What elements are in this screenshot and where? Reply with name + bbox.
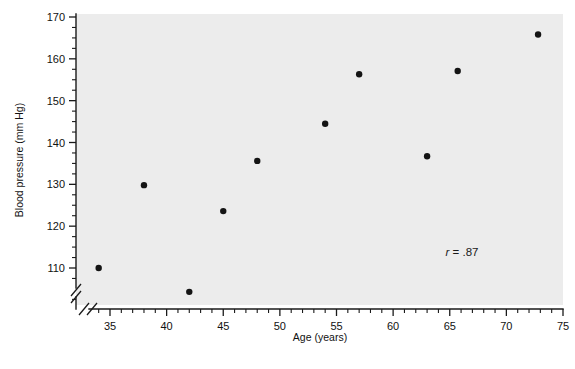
data-point [454,68,460,74]
x-axis-title: Age (years) [293,331,347,343]
x-tick-label: 65 [444,320,456,332]
data-point [95,265,101,271]
data-point [220,208,226,214]
y-tick-label: 150 [47,95,65,107]
data-point [322,120,328,126]
correlation-value-text: = .87 [449,246,478,258]
data-point [141,182,147,188]
correlation-annotation: r = .87 [446,246,479,258]
x-tick-label: 50 [274,320,286,332]
y-tick-label: 170 [47,11,65,23]
x-tick-label: 40 [161,320,173,332]
x-tick-label: 35 [104,320,116,332]
data-point [254,158,260,164]
scatter-plot-figure: 110120130140150160170 354045505560657075… [0,0,575,369]
y-tick-label: 130 [47,178,65,190]
y-tick-label: 120 [47,220,65,232]
y-tick-label: 110 [47,262,65,274]
y-axis-major-ticks [69,17,76,268]
data-point [186,289,192,295]
y-axis-tick-labels: 110120130140150160170 [47,11,65,274]
x-tick-label: 75 [557,320,569,332]
y-axis-title: Blood pressure (mm Hg) [13,103,25,217]
data-point [356,71,362,77]
plot-area-background [76,14,563,305]
x-tick-label: 60 [387,320,399,332]
x-tick-label: 70 [500,320,512,332]
x-tick-label: 45 [217,320,229,332]
data-point [424,153,430,159]
y-tick-label: 160 [47,53,65,65]
y-tick-label: 140 [47,137,65,149]
data-point [535,31,541,37]
